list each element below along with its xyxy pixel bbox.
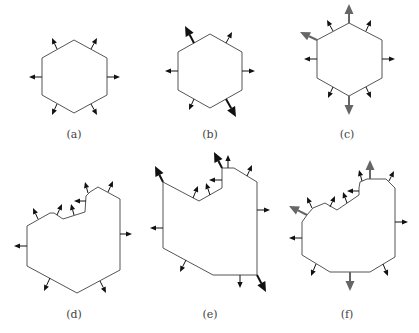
normal-arrow-shaft <box>309 202 312 208</box>
normal-arrow-icon <box>402 219 408 224</box>
normal-arrow-shaft <box>366 25 369 31</box>
normal-arrow-shaft <box>345 198 347 203</box>
figure: (a) (b) (c) (d) (e) (f) <box>0 0 419 333</box>
normal-arrow-shaft <box>54 104 57 110</box>
panel-label-a: (a) <box>66 128 81 141</box>
normal-arrow-shaft <box>191 99 194 105</box>
normal-arrow-shaft <box>47 278 50 286</box>
normal-arrow-shaft <box>91 104 94 110</box>
normal-arrow-shaft <box>208 189 210 195</box>
normal-arrow-icon <box>84 182 89 188</box>
normal-arrow-shaft <box>298 210 307 215</box>
normal-arrow-icon <box>209 177 215 182</box>
normal-arrow-shaft <box>190 35 194 43</box>
normal-arrow-icon <box>14 243 20 248</box>
normal-arrow-icon <box>205 183 210 190</box>
normal-arrow-icon <box>304 56 310 61</box>
panel-label-d: (d) <box>66 308 82 321</box>
panel-e <box>150 152 270 292</box>
normal-arrow-icon <box>165 68 171 73</box>
normal-arrow-icon <box>237 282 242 288</box>
normal-arrow-shaft <box>218 161 222 168</box>
normal-arrow-icon <box>343 192 348 199</box>
normal-arrow-icon <box>29 74 35 79</box>
normal-arrow-shaft <box>57 209 60 215</box>
normal-arrow-shaft <box>383 264 386 270</box>
normal-arrow-icon <box>289 235 295 240</box>
panel-f <box>289 160 408 291</box>
normal-arrow-shaft <box>247 170 250 176</box>
polygon-normals-diagram <box>0 0 419 333</box>
normal-arrow-shaft <box>257 275 261 283</box>
normal-arrow-icon <box>74 198 80 203</box>
panel-label-c: (c) <box>340 128 355 141</box>
normal-arrow-shaft <box>313 264 316 270</box>
polygon-outline <box>302 179 395 272</box>
panel-label-f: (f) <box>341 308 354 321</box>
normal-arrow-shaft <box>226 37 229 43</box>
panel-label-e: (e) <box>202 308 217 321</box>
polygon-outline <box>42 40 107 113</box>
normal-arrow-shaft <box>330 25 333 31</box>
normal-arrow-shaft <box>91 43 94 49</box>
polygon-outline <box>27 187 120 293</box>
normal-arrow-icon <box>126 231 132 236</box>
polygon-outline <box>317 23 382 96</box>
panel-b <box>165 26 255 117</box>
normal-arrow-icon <box>70 204 75 210</box>
normal-arrow-shaft <box>366 87 369 93</box>
panel-c <box>300 4 395 115</box>
normal-arrow-shaft <box>361 176 362 181</box>
normal-arrow-shaft <box>35 213 38 219</box>
polygon-outline <box>163 168 257 275</box>
normal-arrow-icon <box>347 188 353 193</box>
normal-arrow-icon <box>249 68 255 73</box>
normal-arrow-shaft <box>389 176 391 181</box>
normal-arrow-shaft <box>159 175 163 182</box>
normal-arrow-icon <box>345 105 354 115</box>
normal-arrow-shaft <box>108 186 111 192</box>
normal-arrow-icon <box>345 4 354 14</box>
normal-arrow-shaft <box>87 188 88 193</box>
normal-arrow-icon <box>358 170 363 176</box>
panel-label-b: (b) <box>202 128 218 141</box>
normal-arrow-icon <box>346 281 355 291</box>
panel-d <box>14 181 132 293</box>
normal-arrow-shaft <box>330 87 333 93</box>
normal-arrow-icon <box>114 74 120 79</box>
normal-arrow-shaft <box>309 36 317 40</box>
normal-arrow-shaft <box>193 192 196 198</box>
normal-arrow-shaft <box>100 281 103 288</box>
polygon-outline <box>178 34 242 108</box>
normal-arrow-icon <box>150 225 156 230</box>
normal-arrow-icon <box>225 155 230 161</box>
normal-arrow-icon <box>264 207 270 212</box>
panel-a <box>29 38 120 115</box>
normal-arrow-shaft <box>183 260 186 267</box>
normal-arrow-shaft <box>73 210 74 215</box>
normal-arrow-shaft <box>226 99 231 108</box>
normal-arrow-icon <box>366 160 375 170</box>
normal-arrow-icon <box>389 56 395 61</box>
normal-arrow-shaft <box>54 43 57 49</box>
